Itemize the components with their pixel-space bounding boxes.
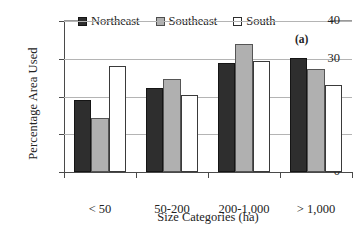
bar-northeast-3 — [290, 58, 308, 172]
bar-northeast-1 — [146, 88, 164, 172]
bar-south-0 — [109, 66, 127, 172]
bar-south-2 — [253, 61, 271, 172]
plot-area: 010203040 < 5050-200200-1,000> 1,000 — [64, 21, 352, 172]
y-tick-mark-20 — [59, 97, 64, 98]
y-tick-mark-40 — [59, 21, 64, 22]
y-tick-mark-30 — [59, 59, 64, 60]
y-tick-label-40: 40 — [300, 13, 340, 28]
y-axis-title: Percentage Area Used — [26, 24, 41, 184]
x-tick-mark-1 — [136, 172, 137, 178]
x-tick-mark-end — [352, 172, 353, 178]
y-tick-mark-10 — [59, 134, 64, 135]
bar-south-1 — [181, 95, 199, 172]
x-tick-mark-0 — [64, 172, 65, 178]
x-axis-title: Size Categories (ha) — [64, 210, 352, 225]
x-tick-mark-3 — [280, 172, 281, 178]
bar-southeast-2 — [235, 44, 253, 172]
bar-southeast-0 — [91, 118, 109, 172]
bar-northeast-2 — [218, 63, 236, 173]
bar-southeast-3 — [307, 69, 325, 172]
bar-south-3 — [325, 85, 343, 172]
x-tick-mark-2 — [208, 172, 209, 178]
bar-northeast-0 — [74, 100, 92, 172]
bar-chart-figure: Percentage Area Used Northeast Southeast… — [0, 0, 362, 248]
bar-southeast-1 — [163, 79, 181, 172]
